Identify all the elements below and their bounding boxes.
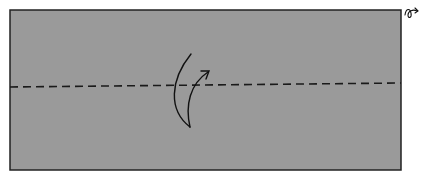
origami-diagram [0, 0, 421, 176]
paper-sheet [10, 10, 401, 170]
turn-over-icon [405, 8, 418, 17]
